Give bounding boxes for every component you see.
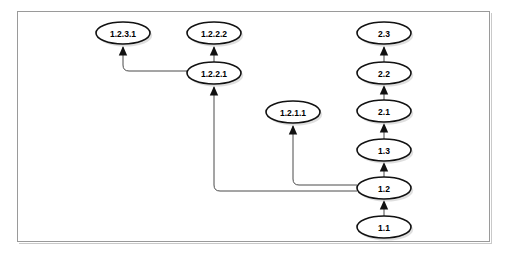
edge-e_1_1_to_1_2: [380, 200, 388, 216]
node-n_1_1[interactable]: 1.1: [357, 216, 413, 241]
node-label: 1.2.1.1: [280, 108, 306, 118]
edge-e_1_2_to_1_2_1_1: [289, 125, 357, 185]
edge-line: [293, 126, 357, 185]
edge-e_1_2_to_1_3: [380, 162, 388, 177]
node-n_2_3[interactable]: 2.3: [357, 22, 413, 47]
node-n_2_2[interactable]: 2.2: [357, 62, 413, 87]
edge-arrowhead: [210, 86, 218, 96]
edge-line: [123, 47, 187, 71]
edge-arrowhead: [119, 46, 127, 56]
node-label: 2.3: [378, 29, 390, 39]
node-label: 1.2.2.1: [201, 69, 227, 79]
node-label: 1.2: [378, 184, 390, 194]
node-n_1_3[interactable]: 1.3: [357, 139, 413, 164]
edge-e_1_3_to_2_1: [380, 123, 388, 139]
node-n_1_2_3_1[interactable]: 1.2.3.1: [96, 22, 152, 47]
node-label: 1.2.3.1: [110, 29, 136, 39]
node-n_1_2[interactable]: 1.2: [357, 177, 413, 202]
edge-e_1_2_2_1_to_1_2_3_1: [119, 46, 187, 71]
revision-tree-graph: 1.2.3.11.2.2.22.31.2.2.12.21.2.1.12.11.3…: [0, 0, 521, 258]
node-n_1_2_1_1[interactable]: 1.2.1.1: [266, 101, 322, 126]
figure-root: 1.2.3.11.2.2.22.31.2.2.12.21.2.1.12.11.3…: [0, 0, 521, 258]
node-n_2_1[interactable]: 2.1: [357, 100, 413, 125]
node-label: 2.1: [378, 107, 390, 117]
node-n_1_2_2_2[interactable]: 1.2.2.2: [187, 22, 243, 47]
edge-arrowhead: [210, 46, 218, 56]
node-label: 2.2: [378, 69, 390, 79]
edge-arrowhead: [289, 125, 297, 135]
edge-e_2_2_to_2_3: [380, 46, 388, 62]
nodes-layer: 1.2.3.11.2.2.22.31.2.2.12.21.2.1.12.11.3…: [96, 22, 413, 241]
edge-arrowhead: [380, 46, 388, 56]
edge-e_2_1_to_2_2: [380, 85, 388, 100]
node-label: 1.3: [378, 146, 390, 156]
node-n_1_2_2_1[interactable]: 1.2.2.1: [187, 62, 243, 87]
edge-e_1_2_2_1_to_1_2_2_2: [210, 46, 218, 62]
node-label: 1.2.2.2: [201, 29, 227, 39]
node-label: 1.1: [378, 223, 390, 233]
edges-layer: [119, 46, 388, 216]
